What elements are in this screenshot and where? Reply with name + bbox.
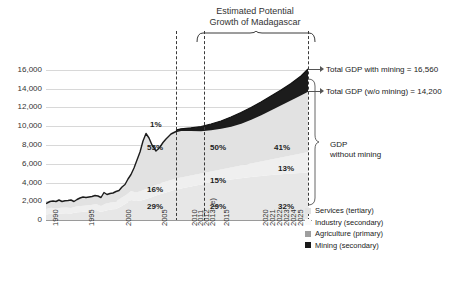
chart-title: Estimated Potential Growth of Madagascar [180, 6, 330, 28]
ytick-label-12000: 12,000 [0, 102, 42, 111]
callout-without-mining-label: Total GDP (w/o mining) = 14,200 [326, 87, 442, 96]
ytick-label-0: 0 [0, 215, 42, 224]
legend-label-mining: Mining (secondary) [315, 240, 379, 252]
ytick-label-6000: 6,000 [0, 159, 42, 168]
legend-swatch-agriculture-icon [305, 231, 311, 237]
legend-swatch-services-icon [305, 208, 311, 214]
legend-label-services: Services (tertiary) [315, 205, 374, 217]
ytick-label-8000: 8,000 [0, 140, 42, 149]
ytick-label-2000: 2,000 [0, 196, 42, 205]
callout-without-mining-arrow [320, 88, 324, 94]
chart-legend: Services (tertiary) Industry (secondary)… [305, 205, 383, 251]
xtick-label-2013e: 2013 (e) [208, 198, 217, 226]
ytick-label-10000: 10,000 [0, 121, 42, 130]
gdp-without-mining-brace [307, 78, 319, 206]
callout-with-mining-label: Total GDP with mining = 16,560 [326, 65, 438, 74]
gdp-without-mining-line1: GDP [330, 140, 381, 150]
legend-item-mining: Mining (secondary) [305, 240, 383, 252]
ytick-label-4000: 4,000 [0, 178, 42, 187]
callout-with-mining-leader [308, 69, 320, 70]
xtick-label-2015: 2015 [222, 209, 231, 226]
xtick-label-2025: 2025 [296, 209, 305, 226]
ytick-label-14000: 14,000 [0, 84, 42, 93]
chart-title-line1: Estimated Potential [180, 6, 330, 17]
pct-2025-services: 41% [274, 143, 290, 152]
callout-with-mining-arrow [320, 66, 324, 72]
chart-title-line2: Growth of Madagascar [180, 17, 330, 28]
pct-2012-services: 55% [147, 143, 163, 152]
legend-swatch-industry-icon [305, 219, 311, 225]
legend-item-industry: Industry (secondary) [305, 217, 383, 229]
legend-swatch-mining-icon [305, 242, 311, 248]
pct-2015-industry: 15% [210, 176, 226, 185]
legend-item-agriculture: Agriculture (primary) [305, 228, 383, 240]
gdp-without-mining-line2: without mining [330, 150, 381, 160]
legend-item-services: Services (tertiary) [305, 205, 383, 217]
chart-root: Estimated Potential Growth of Madagascar [0, 0, 450, 281]
divider-2015 [204, 31, 205, 221]
xtick-label-1990: 1990 [51, 209, 60, 226]
divider-2012 [176, 31, 177, 221]
xtick-label-2005: 2005 [160, 209, 169, 226]
legend-label-industry: Industry (secondary) [315, 217, 383, 229]
pct-2012-mining: 1% [150, 120, 162, 129]
legend-label-agriculture: Agriculture (primary) [315, 228, 383, 240]
stacked-area-chart [46, 60, 308, 221]
forecast-period-brace [196, 31, 316, 43]
plot-area: 1% 55% 16% 29% 50% 15% 29% 41% 13% 32% [46, 60, 308, 221]
xtick-label-1995: 1995 [87, 209, 96, 226]
pct-2025-industry: 13% [278, 164, 294, 173]
ytick-label-16000: 16,000 [0, 65, 42, 74]
xtick-label-2000: 2000 [124, 209, 133, 226]
gdp-without-mining-label: GDP without mining [330, 140, 381, 160]
pct-2015-services: 50% [210, 143, 226, 152]
pct-2012-industry: 16% [147, 185, 163, 194]
